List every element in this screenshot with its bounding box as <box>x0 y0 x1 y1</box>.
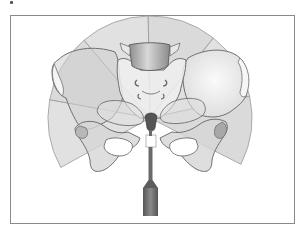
right-obturator-foramen <box>170 138 198 156</box>
left-acetabulum <box>76 126 88 138</box>
probe-neck <box>149 130 152 136</box>
pubic-symphysis <box>146 135 156 147</box>
probe-tip <box>145 113 157 131</box>
pelvis-illustration <box>0 0 308 232</box>
probe-handle <box>143 188 158 216</box>
probe-handle-shoulder <box>143 180 158 188</box>
left-obturator-foramen <box>104 138 132 156</box>
probe-shaft <box>149 147 153 180</box>
sacral-promontory <box>129 43 170 71</box>
